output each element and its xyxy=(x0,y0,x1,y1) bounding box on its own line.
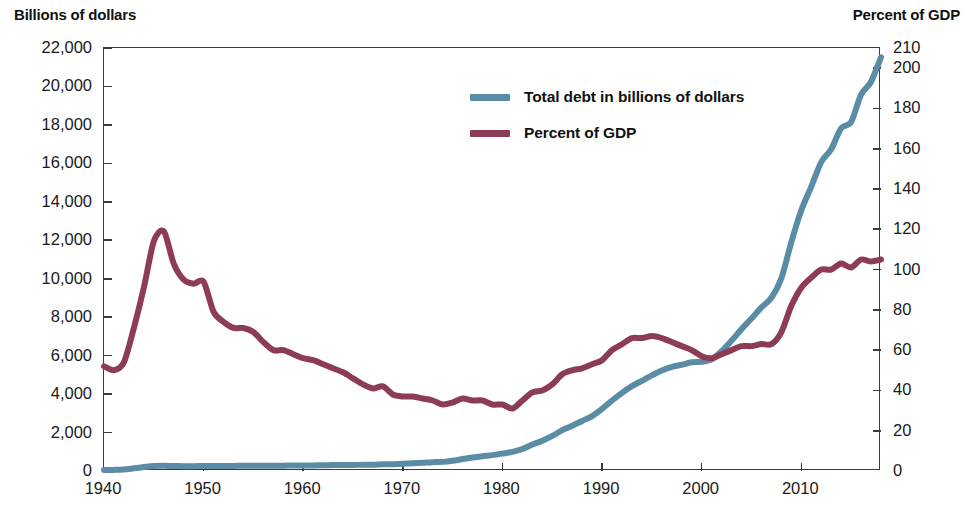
legend-label-gdp: Percent of GDP xyxy=(524,124,636,142)
left-tick-label: 20,000 xyxy=(0,77,92,94)
right-tick-label: 200 xyxy=(893,59,921,76)
left-tick-label: 8,000 xyxy=(0,308,92,325)
right-tick-label: 20 xyxy=(893,421,911,438)
chart-figure: Billions of dollars Percent of GDP 02,00… xyxy=(0,0,970,516)
x-tick-label: 1940 xyxy=(85,480,122,497)
right-tick-label: 180 xyxy=(893,99,921,116)
left-tick-label: 14,000 xyxy=(0,193,92,210)
left-tick-label: 2,000 xyxy=(0,423,92,440)
right-tick-label: 160 xyxy=(893,139,921,156)
legend-swatch-gdp xyxy=(470,130,510,137)
left-tick-label: 18,000 xyxy=(0,116,92,133)
right-tick-label: 100 xyxy=(893,260,921,277)
left-tick-label: 12,000 xyxy=(0,231,92,248)
right-tick-label: 60 xyxy=(893,341,911,358)
right-tick-label: 120 xyxy=(893,220,921,237)
line-percent-of-gdp xyxy=(104,230,881,408)
legend-item-gdp: Percent of GDP xyxy=(470,124,744,142)
x-tick-label: 1970 xyxy=(383,480,420,497)
x-tick-label: 1980 xyxy=(483,480,520,497)
left-tick-label: 0 xyxy=(0,462,92,479)
legend-item-debt: Total debt in billions of dollars xyxy=(470,88,744,106)
left-tick-label: 10,000 xyxy=(0,269,92,286)
legend-label-debt: Total debt in billions of dollars xyxy=(524,88,744,106)
x-tick-label: 1960 xyxy=(284,480,321,497)
right-tick-label: 210 xyxy=(893,39,921,56)
legend: Total debt in billions of dollars Percen… xyxy=(470,88,744,142)
left-tick-label: 6,000 xyxy=(0,346,92,363)
right-tick-label: 40 xyxy=(893,381,911,398)
right-tick-label: 80 xyxy=(893,301,911,318)
left-tick-label: 16,000 xyxy=(0,154,92,171)
right-axis-title: Percent of GDP xyxy=(853,6,960,23)
x-tick-label: 1990 xyxy=(583,480,620,497)
x-tick-label: 2000 xyxy=(682,480,719,497)
x-tick-label: 2010 xyxy=(782,480,819,497)
left-tick-label: 22,000 xyxy=(0,39,92,56)
right-tick-label: 140 xyxy=(893,180,921,197)
left-axis-title: Billions of dollars xyxy=(14,6,136,23)
right-tick-label: 0 xyxy=(893,462,902,479)
x-tick-label: 1950 xyxy=(184,480,221,497)
left-tick-label: 4,000 xyxy=(0,385,92,402)
legend-swatch-debt xyxy=(470,94,510,101)
